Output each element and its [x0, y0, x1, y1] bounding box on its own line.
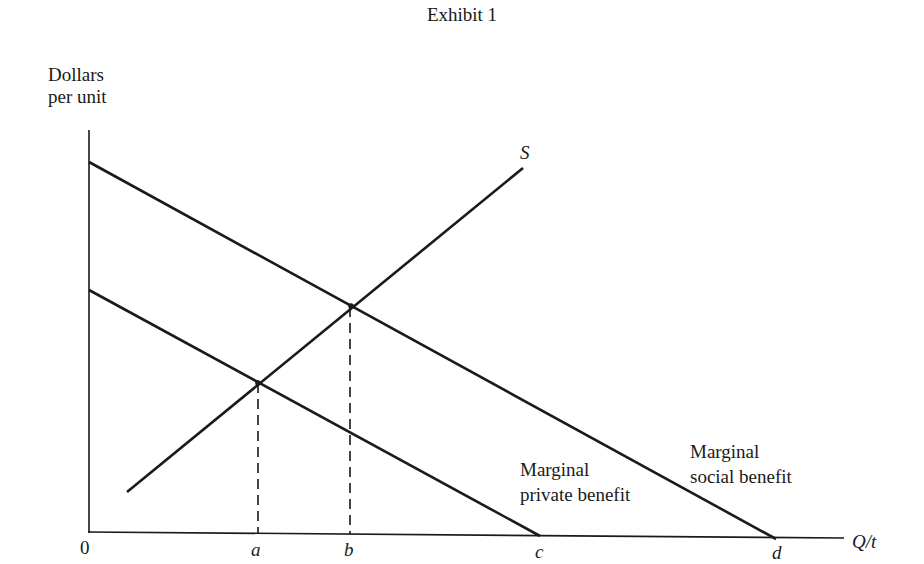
mpb-curve: [89, 290, 540, 536]
x-tick-c: c: [535, 541, 544, 562]
chart-plot: S Marginal social benefit Marginal priva…: [0, 0, 924, 564]
msb-label-line2: social benefit: [690, 466, 793, 487]
x-tick-a: a: [251, 539, 261, 560]
msb-label-line1: Marginal: [690, 441, 759, 462]
intersection-point-a: [255, 380, 261, 386]
x-tick-0: 0: [80, 537, 90, 558]
supply-label: S: [520, 142, 530, 163]
x-axis-label: Q/t: [852, 531, 877, 552]
x-tick-b: b: [344, 539, 354, 560]
x-axis: [88, 532, 844, 538]
x-tick-d: d: [772, 542, 782, 563]
intersection-point-b: [348, 303, 354, 309]
mpb-label-line1: Marginal: [520, 459, 589, 480]
mpb-label-line2: private benefit: [520, 484, 631, 505]
msb-curve: [89, 162, 776, 539]
